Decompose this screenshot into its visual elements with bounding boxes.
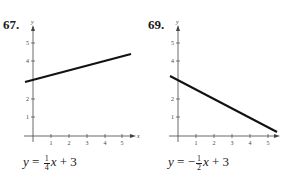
svg-text:1: 1 [195, 140, 198, 146]
y-axis-label: y [175, 19, 179, 25]
y-tick-labels: 5 4 2 1 [171, 40, 174, 120]
graph-panel-69: 69. y 5 4 2 1 1 2 3 4 [141, 0, 282, 182]
svg-text:3: 3 [231, 140, 234, 146]
x-axis-arrow-icon [274, 134, 280, 138]
svg-text:5: 5 [171, 40, 174, 46]
svg-text:2: 2 [68, 140, 71, 146]
y-axis-arrow-icon [31, 25, 35, 31]
svg-text:1: 1 [171, 114, 174, 120]
svg-text:2: 2 [213, 140, 216, 146]
svg-text:4: 4 [26, 58, 29, 64]
svg-text:4: 4 [104, 140, 107, 146]
svg-text:4: 4 [249, 140, 252, 146]
svg-text:3: 3 [86, 140, 89, 146]
graph-panel-67: 67. y x 5 4 2 1 1 [0, 0, 141, 182]
x-tick-labels: 1 2 3 4 5 [195, 140, 270, 146]
y-tick-labels: 5 4 2 1 [26, 40, 29, 120]
svg-text:5: 5 [121, 140, 124, 146]
plot-line [25, 54, 131, 82]
plot-line [170, 76, 277, 132]
equation-label: y = −12x + 3 [168, 154, 229, 172]
svg-text:5: 5 [26, 40, 29, 46]
svg-text:1: 1 [50, 140, 53, 146]
y-axis-label: y [30, 19, 34, 25]
svg-text:1: 1 [26, 114, 29, 120]
fraction: 12 [196, 155, 202, 172]
x-axis-label: x [136, 133, 140, 139]
svg-text:2: 2 [171, 96, 174, 102]
x-tick-labels: 1 2 3 4 5 [50, 140, 124, 146]
y-axis-arrow-icon [176, 25, 180, 31]
x-axis-arrow-icon [130, 134, 136, 138]
svg-text:4: 4 [171, 58, 174, 64]
equation-label: y = 14x + 3 [23, 154, 77, 172]
fraction: 14 [44, 155, 50, 172]
svg-text:2: 2 [26, 96, 29, 102]
svg-text:5: 5 [267, 140, 270, 146]
